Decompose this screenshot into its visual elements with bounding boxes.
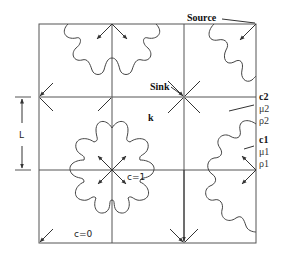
sink-leader [171, 87, 182, 95]
length-label: L [19, 130, 24, 140]
finger-front-top-right [209, 24, 256, 81]
conc-inside-label: c=1 [127, 172, 145, 182]
fluid1-leader [244, 146, 254, 149]
sink-arrow-tl [40, 83, 53, 96]
fluid2-conc-label: c2 [259, 91, 268, 102]
source-label: Source [187, 12, 217, 23]
permeability-label: k [148, 112, 154, 123]
conc-outside-label: c=0 [74, 229, 92, 239]
fluid1-visc-label: μ1 [259, 146, 269, 157]
sink-arrow-mid-left-top [98, 98, 111, 111]
finger-front-right [206, 121, 256, 232]
bottom-sink-arrows [170, 170, 198, 242]
source-arrow [240, 24, 256, 40]
fluid2-dens-label: ρ2 [259, 115, 269, 126]
length-dimension: L [15, 97, 31, 170]
sink-label: Sink [150, 81, 170, 92]
fluid1-conc-label: c1 [259, 134, 268, 145]
fingering-diagram: L [0, 0, 287, 257]
outer-box [39, 24, 256, 243]
fluid2-visc-label: μ2 [259, 103, 269, 114]
fluid1-dens-label: ρ1 [259, 158, 269, 169]
source-leader [222, 19, 255, 23]
sink-arrow-bl [40, 229, 53, 242]
grid [39, 24, 256, 243]
fluid2-leader [229, 105, 254, 111]
